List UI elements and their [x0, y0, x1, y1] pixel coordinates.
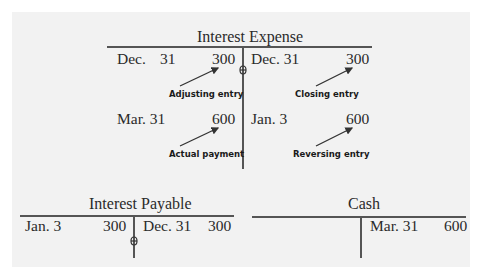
arrow-icon — [180, 68, 218, 86]
arrow-icon — [180, 128, 218, 146]
arrow-icon — [316, 68, 352, 86]
arrows-overlay — [0, 0, 486, 277]
circle-marker-icon — [240, 66, 246, 74]
circle-marker-icon — [131, 237, 137, 245]
arrow-icon — [316, 128, 352, 146]
